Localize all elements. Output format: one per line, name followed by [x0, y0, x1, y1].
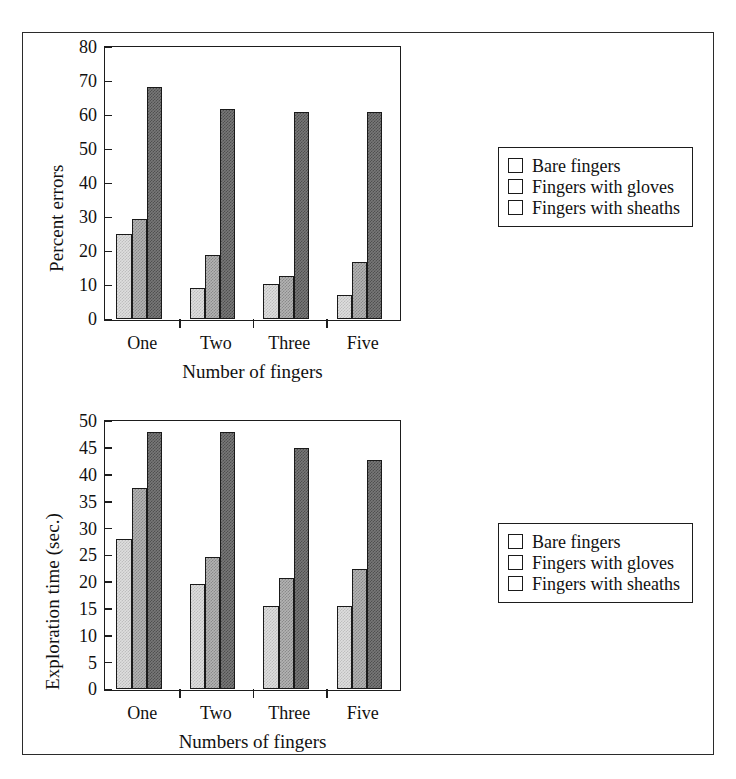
y-axis-tick-mark [105, 608, 112, 610]
bar-three-bare-fingers [263, 606, 278, 689]
y-axis-tick-mark [105, 581, 112, 583]
y-axis-tick-mark [105, 635, 112, 637]
bar-one-fingers-with-sheaths [147, 432, 162, 689]
legend-label: Bare fingers [532, 533, 620, 551]
legend-percent-errors: Bare fingers Fingers with gloves Fingers… [498, 147, 693, 227]
x-axis-category-label: Three [268, 703, 310, 724]
bar-two-bare-fingers [190, 584, 205, 690]
legend-item: Bare fingers [508, 531, 680, 552]
y-axis-tick-label: 25 [79, 545, 97, 566]
y-axis-tick-mark [105, 662, 112, 664]
y-axis-tick-mark [105, 501, 112, 503]
x-axis-category-label: One [127, 703, 157, 724]
chart-exploration-time: Exploration time (sec.) 0510152025303540… [0, 0, 736, 779]
x-axis-tick-mark [326, 689, 328, 698]
legend-swatch-fingers-with-gloves [508, 555, 523, 570]
y-axis-tick-mark [105, 528, 112, 530]
bar-two-fingers-with-sheaths [220, 432, 235, 690]
x-axis-tick-mark [253, 689, 255, 698]
y-axis-tick-label: 30 [79, 518, 97, 539]
legend-label: Bare fingers [532, 157, 620, 175]
y-axis-tick-mark [105, 555, 112, 557]
bar-three-fingers-with-gloves [279, 578, 294, 689]
bar-three-fingers-with-sheaths [294, 448, 309, 689]
legend-swatch-fingers-with-sheaths [508, 200, 523, 215]
legend-item: Bare fingers [508, 155, 680, 176]
legend-item: Fingers with gloves [508, 552, 680, 573]
legend-swatch-fingers-with-gloves [508, 179, 523, 194]
figure-page: Percent errors 01020304050607080OneTwoTh… [0, 0, 736, 779]
legend-label: Fingers with sheaths [532, 199, 680, 217]
legend-label: Fingers with gloves [532, 178, 674, 196]
bar-two-fingers-with-gloves [205, 557, 220, 689]
legend-label: Fingers with sheaths [532, 575, 680, 593]
bar-one-fingers-with-gloves [132, 488, 147, 689]
y-axis-tick-label: 40 [79, 465, 97, 486]
y-axis-tick-label: 20 [79, 572, 97, 593]
bar-five-fingers-with-gloves [352, 569, 367, 690]
y-axis-tick-label: 35 [79, 491, 97, 512]
legend-swatch-fingers-with-sheaths [508, 576, 523, 591]
y-axis-tick-mark [105, 421, 112, 423]
y-axis-tick-label: 5 [88, 652, 97, 673]
bar-five-bare-fingers [337, 606, 352, 689]
legend-label: Fingers with gloves [532, 554, 674, 572]
legend-item: Fingers with sheaths [508, 573, 680, 594]
x-axis-label: Numbers of fingers [179, 731, 327, 753]
y-axis-tick-label: 50 [79, 411, 97, 432]
y-axis-tick-label: 45 [79, 438, 97, 459]
y-axis-tick-label: 10 [79, 625, 97, 646]
legend-exploration-time: Bare fingers Fingers with gloves Fingers… [498, 523, 693, 603]
y-axis-tick-mark [105, 474, 112, 476]
legend-item: Fingers with sheaths [508, 197, 680, 218]
x-axis-tick-mark [179, 689, 181, 698]
legend-item: Fingers with gloves [508, 176, 680, 197]
y-axis-label-exploration-time: Exploration time (sec.) [42, 513, 64, 690]
y-axis-tick-mark [105, 447, 112, 449]
y-axis-tick-mark [105, 689, 112, 691]
bar-five-fingers-with-sheaths [367, 460, 382, 689]
y-axis-tick-label: 0 [88, 679, 97, 700]
legend-swatch-bare-fingers [508, 534, 523, 549]
y-axis-tick-label: 15 [79, 599, 97, 620]
bar-one-bare-fingers [116, 539, 131, 689]
x-axis-category-label: Five [347, 703, 379, 724]
x-axis-category-label: Two [200, 703, 232, 724]
legend-swatch-bare-fingers [508, 158, 523, 173]
